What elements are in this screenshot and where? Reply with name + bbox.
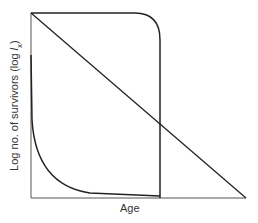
x-axis-label: Age bbox=[120, 202, 140, 214]
type-2-curve bbox=[31, 13, 246, 198]
type-3-curve bbox=[31, 55, 160, 196]
type-1-curve bbox=[31, 13, 160, 198]
survivorship-diagram bbox=[0, 0, 258, 223]
y-axis-label: Log no. of survivors (log lx) bbox=[8, 26, 23, 186]
